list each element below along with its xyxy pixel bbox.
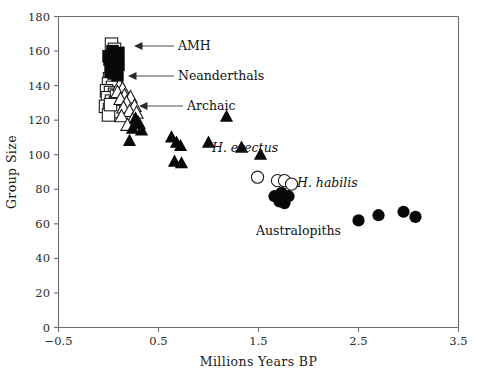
data-point: [285, 178, 297, 190]
data-point: [372, 209, 384, 221]
annotation-amh: AMH: [134, 38, 211, 53]
y-tick-label: 20: [35, 286, 50, 300]
annotation-neanderthals: Neanderthals: [128, 68, 264, 83]
data-point: [104, 66, 116, 78]
data-point: [123, 134, 136, 146]
x-tick-label: 0.5: [149, 334, 167, 348]
series-australopiths: [268, 187, 421, 227]
y-tick-label: 40: [35, 251, 50, 265]
series-h-habilis: [251, 171, 297, 190]
annotation-archaic: Archaic: [139, 98, 236, 113]
series-label-h-erectus: H. erectus: [211, 140, 278, 155]
axes: 020406080100120140160180−0.50.51.52.53.5: [28, 10, 468, 348]
y-tick-label: 100: [28, 148, 50, 162]
x-tick-label: −0.5: [45, 334, 73, 348]
x-axis-title: Millions Years BP: [200, 354, 318, 369]
data-point: [352, 214, 364, 226]
series-h-erectus: [123, 110, 267, 169]
x-tick-label: 2.5: [349, 334, 367, 348]
y-tick-label: 60: [35, 217, 50, 231]
data-point: [102, 50, 114, 62]
annotation-label: AMH: [177, 38, 211, 53]
data-point: [273, 195, 285, 207]
y-tick-label: 0: [43, 321, 50, 335]
data-point: [409, 211, 421, 223]
y-tick-label: 80: [35, 182, 50, 196]
data-point: [251, 171, 263, 183]
y-tick-label: 140: [28, 79, 50, 93]
scatter-plot-figure: 020406080100120140160180−0.50.51.52.53.5…: [0, 0, 477, 380]
y-tick-label: 180: [28, 10, 50, 24]
y-axis-title: Group Size: [4, 135, 19, 209]
series-label-australopiths: Australopiths: [255, 223, 341, 238]
annotations: AMHNeanderthalsArchaicH. erectusH. habil…: [128, 38, 358, 238]
annotation-label: Archaic: [186, 98, 236, 113]
chart-canvas: 020406080100120140160180−0.50.51.52.53.5…: [0, 0, 477, 380]
series-amh: [102, 45, 124, 82]
annotation-label: Neanderthals: [178, 68, 264, 83]
data-point: [397, 206, 409, 218]
x-tick-label: 1.5: [249, 334, 267, 348]
x-tick-label: 3.5: [449, 334, 467, 348]
series-label-h-habilis: H. habilis: [296, 175, 358, 190]
y-tick-label: 120: [28, 113, 50, 127]
data-points: [99, 38, 421, 227]
y-tick-label: 160: [28, 44, 50, 58]
